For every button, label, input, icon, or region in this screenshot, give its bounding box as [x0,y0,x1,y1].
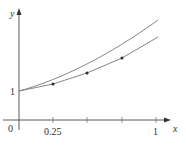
y-tick-label-1: 1 [10,86,15,97]
euler-approximation-chart: y x 0 1 0.25 1 [0,0,186,145]
data-point-marker [51,82,54,85]
data-point-marker [85,71,88,74]
lower-polygonal-curve [19,37,158,91]
upper-curve [19,20,158,91]
x-tick-label-1: 1 [153,126,158,137]
x-axis-arrow-icon [164,118,171,123]
origin-label: 0 [8,123,13,134]
data-point-marker [120,56,123,59]
y-axis-label: y [9,8,15,19]
y-axis-arrow-icon [17,8,22,15]
x-axis-label: x [172,123,178,134]
x-tick-label-0.25: 0.25 [44,126,62,137]
